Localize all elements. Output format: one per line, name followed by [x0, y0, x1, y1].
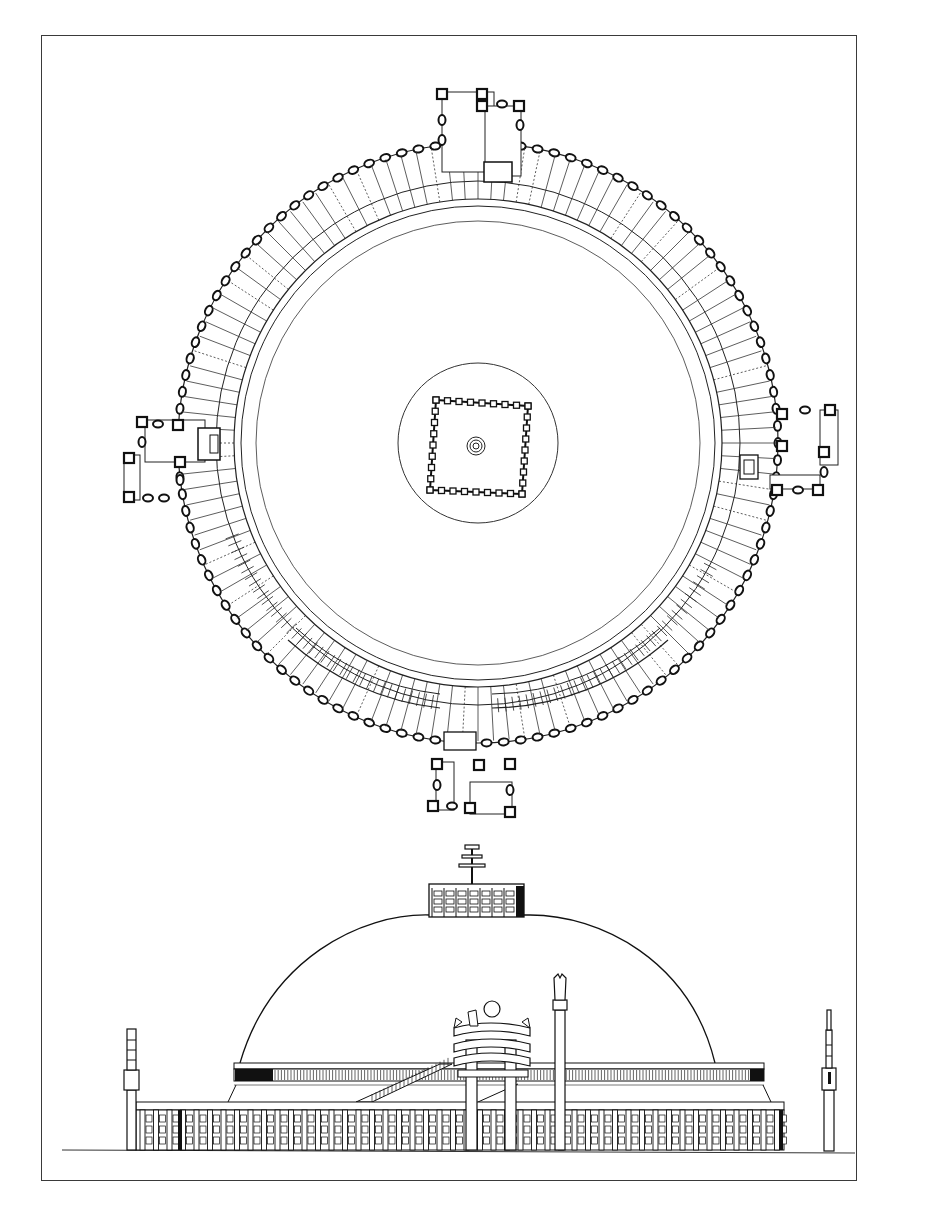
harmika: [429, 845, 524, 917]
ground-railing: [136, 1102, 787, 1150]
north-gateway: [437, 89, 524, 182]
railing-links: [175, 139, 782, 746]
dome-base-circle: [256, 221, 700, 665]
ashoka-pillar: [553, 974, 567, 1150]
architectural-drawing: [0, 0, 928, 1219]
drum-inner-circle: [241, 206, 715, 680]
harmika-platform-circle: [398, 363, 558, 523]
drum-outer-circle: [234, 199, 722, 687]
caption: [60, 1194, 860, 1200]
right-pillar: [822, 1010, 836, 1151]
west-gateway: [124, 417, 220, 502]
elevation-view: [62, 845, 855, 1153]
east-gateway: [740, 405, 838, 495]
dharmachakra: [484, 1001, 500, 1017]
plan-view: [124, 89, 838, 817]
paving-slabs: [180, 145, 776, 741]
upper-terrace-railing: [228, 1063, 771, 1102]
